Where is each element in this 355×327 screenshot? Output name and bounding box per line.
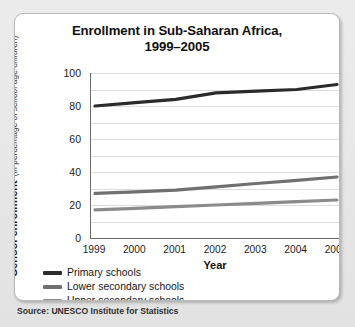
series-lines bbox=[91, 73, 340, 238]
series-line bbox=[95, 177, 337, 193]
y-axis-label-main: School enrollment bbox=[14, 180, 19, 276]
x-tick-2003: 2003 bbox=[233, 244, 277, 255]
x-tick-1999: 1999 bbox=[72, 244, 116, 255]
chart-title: Enrollment in Sub-Saharan Africa, 1999–2… bbox=[15, 23, 339, 54]
y-tick-40: 40 bbox=[45, 167, 81, 177]
source-note: Source: UNESCO Institute for Statistics bbox=[17, 306, 178, 316]
legend-label: Lower secondary schools bbox=[67, 281, 184, 293]
chart-title-line-2: 1999–2005 bbox=[15, 39, 339, 55]
chart-panel: Enrollment in Sub-Saharan Africa, 1999–2… bbox=[14, 13, 340, 301]
series-line bbox=[95, 200, 337, 210]
y-tick-60: 60 bbox=[45, 134, 81, 144]
y-axis-label: School enrollment (in percentage of scho… bbox=[14, 66, 47, 246]
x-tick-2000: 2000 bbox=[112, 244, 156, 255]
legend-swatch-icon bbox=[43, 299, 62, 301]
series-line bbox=[95, 85, 337, 107]
legend-swatch-icon bbox=[43, 271, 62, 276]
y-tick-0: 0 bbox=[45, 233, 81, 243]
y-tick-100: 100 bbox=[45, 68, 81, 78]
chart-legend: Primary schoolsLower secondary schoolsUp… bbox=[43, 266, 184, 301]
legend-item[interactable]: Upper secondary schools bbox=[43, 294, 184, 301]
legend-item[interactable]: Lower secondary schools bbox=[43, 280, 184, 294]
legend-label: Upper secondary schools bbox=[67, 295, 184, 301]
x-tick-2001: 2001 bbox=[153, 244, 197, 255]
legend-label: Primary schools bbox=[67, 267, 141, 279]
legend-item[interactable]: Primary schools bbox=[43, 266, 184, 280]
x-tick-2005: 2005 bbox=[314, 244, 340, 255]
y-tick-80: 80 bbox=[45, 101, 81, 111]
y-axis-label-sub: (in percentage of school-age children) bbox=[14, 36, 19, 177]
plot-area bbox=[90, 73, 340, 239]
chart-title-line-1: Enrollment in Sub-Saharan Africa, bbox=[15, 23, 339, 39]
y-tick-20: 20 bbox=[45, 200, 81, 210]
legend-swatch-icon bbox=[43, 285, 62, 290]
x-tick-2002: 2002 bbox=[193, 244, 237, 255]
x-tick-2004: 2004 bbox=[274, 244, 318, 255]
